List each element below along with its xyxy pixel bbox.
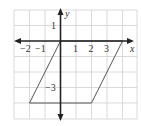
x-tick-1: 1	[73, 43, 78, 54]
y-tick-neg3: −3	[45, 82, 56, 93]
x-axis-label: x	[129, 43, 135, 54]
x-tick-neg2: −2	[20, 43, 31, 54]
x-tick-3: 3	[104, 43, 109, 54]
y-axis-up-arrow-icon	[58, 8, 64, 15]
x-tick-2: 2	[89, 43, 94, 54]
y-axis-label: y	[64, 8, 70, 19]
y-axis-down-arrow-icon	[58, 114, 64, 121]
y-tick-1: 1	[51, 20, 56, 31]
coordinate-plane: y x −2 −1 1 2 3 1 −3	[0, 0, 141, 126]
x-tick-neg1: −1	[35, 43, 46, 54]
